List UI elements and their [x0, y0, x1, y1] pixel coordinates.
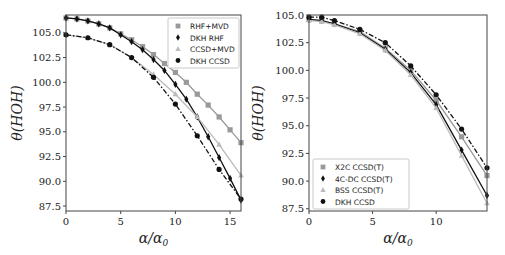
y-tick-label: 87.5: [39, 201, 61, 212]
circle-marker: [195, 133, 200, 138]
circle-marker: [383, 40, 388, 45]
x-tick-label: 0: [306, 216, 312, 227]
y-tick-label: 97.5: [282, 93, 304, 104]
square-marker: [227, 127, 232, 132]
square-marker: [459, 134, 464, 139]
circle-marker: [332, 18, 337, 23]
square-marker: [162, 61, 167, 66]
circle-marker: [107, 42, 112, 47]
legend-entry: DKH CCSD: [335, 198, 375, 207]
chart-panel-1: 05101587.590.092.595.097.5100.0102.5105.…: [9, 14, 244, 248]
legend-entry: RHF+MVD: [190, 22, 229, 31]
y-tick-label: 102.5: [32, 52, 61, 63]
legend-entry: BSS CCSD(T): [335, 186, 383, 195]
y-tick-label: 90.0: [39, 176, 61, 187]
y-tick-label: 95.0: [282, 120, 304, 131]
y-tick-label: 102.5: [275, 37, 304, 48]
x-axis-label: α/α0: [139, 230, 169, 248]
circle-marker: [85, 35, 90, 40]
circle-marker: [408, 63, 413, 68]
square-marker: [173, 70, 178, 75]
legend-entry: DKH RHF: [190, 34, 224, 43]
circle-marker: [217, 167, 222, 172]
y-axis-label: θ(HOH): [250, 85, 266, 140]
square-marker: [184, 80, 189, 85]
circle-marker: [459, 126, 464, 131]
legend: X2C CCSD(T)4C-DC CCSD(T)BSS CCSD(T)DKH C…: [313, 159, 409, 209]
x-tick-label: 0: [63, 216, 69, 227]
y-tick-label: 100.0: [275, 65, 304, 76]
x-tick-label: 10: [430, 216, 443, 227]
y-tick-label: 100.0: [32, 77, 61, 88]
y-tick-label: 97.5: [39, 102, 61, 113]
square-marker: [321, 165, 326, 170]
y-tick-label: 105.0: [32, 27, 61, 38]
circle-marker: [357, 27, 362, 32]
chart-figure: 05101587.590.092.595.097.5100.0102.5105.…: [0, 0, 505, 255]
x-tick-label: 5: [118, 216, 124, 227]
x-axis-label: α/α0: [383, 230, 413, 248]
y-tick-label: 87.5: [282, 203, 304, 214]
y-tick-label: 92.5: [282, 148, 304, 159]
chart-panel-2: 051087.590.092.595.097.5100.0102.5105.0α…: [250, 10, 490, 249]
legend: RHF+MVDDKH RHFCCSD+MVDDKH CCSD: [168, 18, 239, 68]
legend-entry: CCSD+MVD: [190, 45, 235, 54]
legend-entry: 4C-DC CCSD(T): [335, 175, 393, 184]
circle-marker: [434, 92, 439, 97]
legend-entry: DKH CCSD: [190, 57, 230, 66]
series-line: [309, 17, 487, 168]
circle-marker: [321, 199, 326, 204]
legend-entry: X2C CCSD(T): [335, 163, 384, 172]
circle-marker: [173, 101, 178, 106]
square-marker: [217, 114, 222, 119]
circle-marker: [151, 75, 156, 80]
circle-marker: [176, 58, 181, 63]
circle-marker: [129, 55, 134, 60]
y-tick-label: 92.5: [39, 151, 61, 162]
x-tick-label: 5: [369, 216, 375, 227]
x-tick-label: 15: [224, 216, 237, 227]
x-tick-label: 10: [169, 216, 182, 227]
square-marker: [195, 92, 200, 97]
square-marker: [206, 102, 211, 107]
y-tick-label: 95.0: [39, 126, 61, 137]
y-tick-label: 90.0: [282, 176, 304, 187]
y-axis-label: θ(HOH): [9, 85, 25, 140]
y-tick-label: 105.0: [275, 10, 304, 21]
square-marker: [176, 24, 181, 29]
